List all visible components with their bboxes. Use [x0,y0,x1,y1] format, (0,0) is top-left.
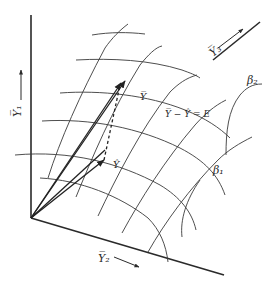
regression-geometry-diagram: Y̅₁ Y̅₂ Y̅₃ β₁ β₂ Y̅ Ŷ Y̅ − Ŷ = E [0,0,275,285]
label-beta2: β₂ [246,74,258,87]
label-y2: Y̅₂ [98,251,110,265]
surface-grid [15,24,262,262]
label-error: Y̅ − Ŷ = E [165,108,210,119]
grid-line [122,100,226,233]
label-beta1: β₁ [212,164,224,177]
label-y1: Y̅₁ [10,105,24,117]
arrow-y2-icon [114,257,139,267]
grid-line [226,84,262,155]
coordinate-axes [31,15,260,275]
label-vector-y-hat: Ŷ [113,159,121,170]
grid-line [148,137,252,252]
grid-line [182,180,200,237]
label-y3: Y̅₃ [206,41,224,59]
label-vector-y: Y̅ [140,91,148,102]
axis-direction-arrows [21,29,243,267]
vector-y-hat-extended [31,150,105,218]
grid-line [40,178,168,262]
vector-y-hat [31,160,104,218]
grid-line [92,33,145,35]
